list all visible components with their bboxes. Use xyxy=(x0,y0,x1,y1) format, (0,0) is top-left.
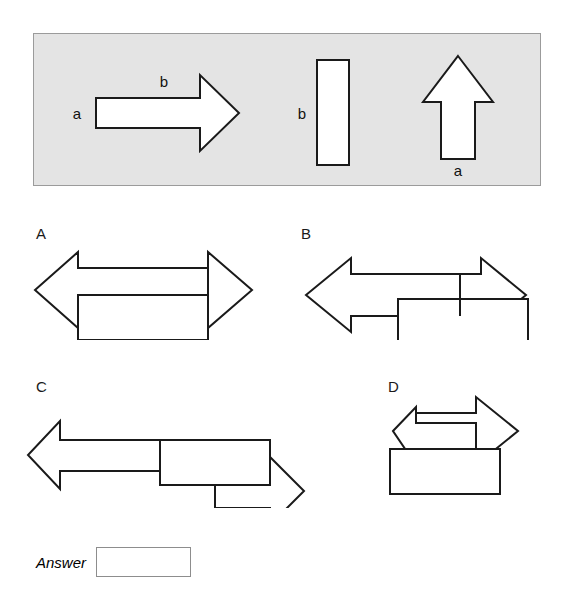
option-c-figure[interactable] xyxy=(20,393,310,508)
option-d[interactable]: D xyxy=(268,375,568,510)
rectangle-height-label: b xyxy=(298,105,306,122)
option-c-left-arrow xyxy=(28,421,160,489)
option-c-rectangle-box xyxy=(160,440,270,485)
option-a-figure[interactable] xyxy=(20,240,270,340)
question-page: a b b a A B xyxy=(0,0,572,598)
option-a-letter: A xyxy=(36,226,46,241)
option-d-figure[interactable] xyxy=(358,385,538,510)
option-a-rectangle-box xyxy=(78,295,208,340)
option-c-letter: C xyxy=(36,379,47,394)
answer-input[interactable] xyxy=(96,547,191,577)
option-b-letter: B xyxy=(301,226,311,241)
option-b-rectangle-box xyxy=(398,299,528,340)
stimulus-shapes: a b b a xyxy=(34,34,542,187)
answer-row: Answer xyxy=(36,547,191,577)
answer-label: Answer xyxy=(36,554,86,571)
tall-rectangle-shape xyxy=(317,60,349,165)
option-b-figure[interactable] xyxy=(288,240,548,340)
option-a[interactable]: A xyxy=(0,222,290,347)
right-arrow-height-label: a xyxy=(73,105,82,122)
up-arrow-width-label: a xyxy=(454,162,463,179)
option-d-rectangle-box xyxy=(390,449,500,494)
right-arrow-length-label: b xyxy=(160,73,168,90)
option-b[interactable]: B xyxy=(268,222,568,347)
stimulus-panel: a b b a xyxy=(33,33,541,186)
up-arrow-shape xyxy=(423,56,493,159)
